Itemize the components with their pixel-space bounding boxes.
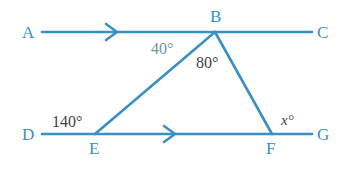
geometry-canvas — [0, 0, 347, 170]
vertex-label-a: A — [22, 24, 34, 41]
angle-label-deb: 140° — [52, 114, 82, 130]
vertex-label-d: D — [22, 126, 34, 143]
segment-BF — [215, 32, 272, 134]
angle-label-abe: 40° — [151, 41, 173, 57]
geometry-diagram: A B C D E F G 40° 80° 140° x° — [0, 0, 347, 170]
vertex-label-b: B — [210, 8, 221, 25]
vertex-label-f: F — [266, 140, 275, 157]
angle-label-bfg: x° — [281, 113, 294, 128]
vertex-label-c: C — [317, 24, 328, 41]
vertex-label-e: E — [89, 140, 99, 157]
vertex-label-g: G — [317, 126, 329, 143]
angle-label-ebf: 80° — [196, 55, 218, 71]
